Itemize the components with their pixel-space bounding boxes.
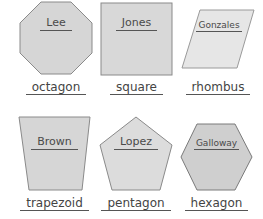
label-text: hexagon: [185, 196, 249, 211]
shape-name-square: Jones: [101, 16, 172, 29]
shape-name-trapezoid: Brown: [19, 135, 90, 148]
shape-name-hexagon: Galloway: [181, 138, 252, 148]
name-text: Jones: [116, 16, 157, 31]
octagon-shape: [20, 2, 92, 74]
name-text: Brown: [31, 135, 78, 150]
rhombus-shape: [182, 10, 254, 68]
shape-label-pentagon: pentagon: [100, 196, 172, 210]
shape-label-trapezoid: trapezoid: [19, 196, 90, 210]
name-text: Galloway: [194, 138, 239, 150]
name-text: Gonzales: [196, 20, 241, 32]
label-text: rhombus: [186, 80, 251, 95]
shape-label-rhombus: rhombus: [182, 80, 254, 94]
name-text: Lee: [40, 16, 71, 31]
pentagon-shape: [100, 117, 172, 190]
shape-name-rhombus: Gonzales: [188, 20, 250, 30]
label-text: octagon: [26, 80, 87, 95]
trapezoid-shape: [19, 117, 90, 190]
name-text: Lopez: [114, 135, 158, 150]
square-shape: [101, 3, 172, 75]
hexagon-shape: [181, 124, 252, 190]
label-text: square: [110, 80, 163, 95]
label-text: pentagon: [101, 196, 170, 211]
shape-label-octagon: octagon: [20, 80, 92, 94]
label-text: trapezoid: [20, 196, 89, 211]
shape-name-octagon: Lee: [20, 16, 92, 29]
shape-label-hexagon: hexagon: [181, 196, 252, 210]
shape-label-square: square: [101, 80, 172, 94]
shape-name-pentagon: Lopez: [100, 135, 172, 148]
shapes-canvas: [0, 0, 263, 219]
shape-worksheet: Lee Jones Gonzales Brown Lopez Galloway …: [0, 0, 263, 219]
